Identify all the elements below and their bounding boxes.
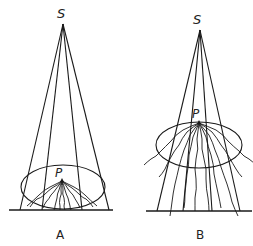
diagram-label-a: A	[56, 228, 65, 242]
point-label-a: P	[55, 166, 63, 180]
source-label-b: S	[193, 12, 201, 27]
source-label-a: S	[57, 6, 65, 21]
diagram-label-b: B	[196, 228, 204, 242]
diagram-canvas: S P A S P B	[0, 0, 253, 246]
diagram-a	[9, 24, 113, 210]
diagram-b	[144, 30, 253, 216]
scatter-rays-b	[144, 123, 253, 216]
point-label-b: P	[192, 107, 200, 121]
